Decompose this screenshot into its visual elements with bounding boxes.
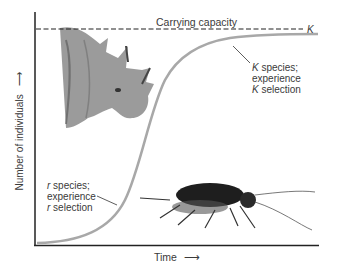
k-italic-2: K [252,84,259,95]
k-selection-text: selection [259,84,301,95]
r-selection-text: selection [50,202,92,213]
cockroach-illustration [140,183,315,230]
y-axis-label: Number of individuals ⟶ [14,81,25,191]
r-pointer-line [97,196,117,205]
rhino-illustration [60,27,154,128]
k-species-text: species; [259,62,298,73]
r-species-text: species; [50,180,89,191]
k-species-annotation: K species; experience K selection [252,62,301,95]
k-pointer-line [233,46,250,63]
y-axis-title: Number of individuals [14,94,25,190]
x-arrow-icon: ⟶ [184,251,200,263]
r-experience-text: experience [47,191,96,202]
diagram-canvas [0,0,340,264]
x-axis-label: Time ⟶ [154,252,200,263]
carrying-capacity-label: Carrying capacity [156,17,237,28]
k-italic: K [252,62,259,73]
k-symbol: K [307,24,314,35]
r-species-annotation: r species; experience r selection [47,180,96,213]
y-arrow-icon: ⟶ [14,72,25,86]
k-experience-text: experience [252,73,301,84]
x-axis-title: Time [154,251,177,263]
